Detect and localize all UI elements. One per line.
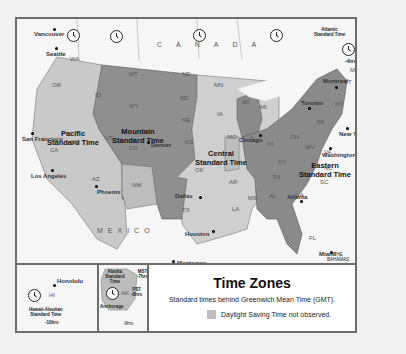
- alaska-inset: Alaska Standard Time AK Anchorage MST -7…: [97, 265, 149, 331]
- city-label-houston: Houston: [185, 231, 209, 237]
- state-label-me: ME: [350, 67, 357, 73]
- state-label-ut: UT: [105, 135, 113, 141]
- legend-box: Time Zones Standard times behind Greenwi…: [149, 265, 355, 331]
- city-dot-seattle: [55, 47, 58, 50]
- hawaii-offset: -10hrs: [45, 320, 59, 325]
- city-label-washington: Washington DC: [322, 152, 357, 158]
- zone-label-central: Central Standard Time: [195, 149, 247, 167]
- state-label-nd: ND: [182, 71, 191, 77]
- state-label-sc: SC: [320, 179, 328, 185]
- city-label-anchorage: Anchorage: [100, 304, 124, 309]
- city-dot-montreal: [335, 86, 338, 89]
- state-label-co: CO: [129, 145, 138, 151]
- city-label-vancouver: Vancouver: [34, 31, 64, 37]
- country-label-canada: CANADA: [157, 41, 270, 48]
- state-label-ky: KY: [278, 159, 286, 165]
- hawaii-inset: Honolulu HI Hawaii-Aleutian Standard Tim…: [17, 265, 99, 331]
- city-dot-houston: [212, 230, 215, 233]
- city-label-new-york: New York: [339, 131, 357, 137]
- state-label-oh: OH: [290, 134, 299, 140]
- state-label-mo: MO: [227, 134, 237, 140]
- legend-key-label: Daylight Saving Time not observed.: [221, 311, 331, 318]
- city-label-seattle: Seattle: [46, 51, 66, 57]
- city-label-dallas: Dallas: [175, 193, 193, 199]
- no-dst-swatch: [207, 310, 216, 319]
- legend-subtitle: Standard times behind Greenwich Mean Tim…: [149, 296, 355, 303]
- state-label-la: LA: [232, 206, 239, 212]
- city-label-chicago: Chicago: [239, 137, 263, 143]
- state-label-tn: TN: [272, 174, 280, 180]
- state-label-ak: AK: [121, 290, 129, 296]
- city-label-montreal: Montreal: [323, 78, 348, 84]
- city-dot-san-francisco: [31, 132, 34, 135]
- state-label-nc: NC: [324, 165, 333, 171]
- state-label-mn: MN: [214, 82, 223, 88]
- state-label-or: OR: [52, 82, 61, 88]
- city-dot-dallas: [199, 196, 202, 199]
- state-label-wy: WY: [129, 103, 139, 109]
- city-label-miami: Miami: [319, 251, 336, 257]
- state-label-wi: WI: [242, 99, 249, 105]
- state-label-ne: NE: [182, 117, 190, 123]
- city-label-honolulu: Honolulu: [57, 278, 83, 284]
- clock-icon-alaska: [106, 287, 119, 300]
- legend-title: Time Zones: [149, 275, 355, 291]
- clock-icon-mountain: [110, 30, 123, 43]
- city-dot-washington: [329, 147, 332, 150]
- zone-label-atlantic: Atlantic Standard Time: [314, 27, 345, 37]
- state-label-ar: AR: [229, 179, 237, 185]
- state-label-wv: WV: [305, 144, 315, 150]
- state-label-tx: TX: [182, 207, 190, 213]
- state-label-hi: HI: [49, 292, 55, 298]
- insets-panel: Honolulu HI Hawaii-Aleutian Standard Tim…: [15, 263, 357, 333]
- state-label-nv: NV: [71, 139, 79, 145]
- legend-key: Daylight Saving Time not observed.: [207, 310, 331, 319]
- state-label-ny: NY: [335, 101, 343, 107]
- city-label-atlanta: Atlanta: [287, 194, 307, 200]
- city-dot-honolulu: [53, 284, 56, 287]
- clock-icon-atlantic: [342, 43, 355, 56]
- state-label-sd: SD: [180, 95, 188, 101]
- city-dot-new-york: [346, 127, 349, 130]
- city-label-toronto: Toronto: [301, 100, 323, 106]
- zone-label-hawaii: Hawaii-Aleutian Standard Time: [29, 307, 63, 317]
- alaska-pst: PST -8hrs: [131, 287, 142, 297]
- city-dot-atlanta: [300, 200, 303, 203]
- state-label-id: ID: [95, 92, 101, 98]
- state-label-mi: MI: [260, 104, 267, 110]
- state-label-fl: FL: [309, 235, 316, 241]
- city-dot-toronto: [308, 107, 311, 110]
- state-label-ok: OK: [195, 167, 204, 173]
- state-label-az: AZ: [92, 176, 100, 182]
- state-label-ms: MS: [248, 195, 257, 201]
- state-label-in: IN: [267, 141, 273, 147]
- country-label-mexico: MEXICO: [97, 227, 155, 234]
- atlantic-offset: -4hrs: [345, 59, 356, 64]
- city-dot-los-angeles: [51, 169, 54, 172]
- clock-icon-pacific: [67, 29, 80, 42]
- city-dot-denver: [147, 141, 150, 144]
- state-label-wa: WA: [70, 56, 79, 62]
- state-label-ia: IA: [217, 111, 223, 117]
- state-label-mt: MT: [129, 71, 138, 77]
- city-label-denver: Denver: [151, 142, 171, 148]
- state-label-nm: NM: [132, 182, 141, 188]
- city-dot-phoenix: [95, 185, 98, 188]
- alaska-offset: -9hrs: [123, 321, 133, 326]
- zone-label-alaska: Alaska Standard Time: [105, 269, 125, 284]
- main-map: CANADA MEXICO THE BAHAMAS Pacific Standa…: [15, 17, 357, 265]
- clock-icon-eastern: [270, 29, 283, 42]
- clock-icon-hawaii: [28, 289, 41, 302]
- state-label-pa: PA: [317, 119, 325, 125]
- state-label-ca: CA: [50, 147, 58, 153]
- state-label-ks: KS: [185, 139, 193, 145]
- city-label-san-francisco: San Francisco: [22, 136, 63, 142]
- city-label-phoenix: Phoenix: [97, 189, 120, 195]
- city-label-los-angeles: Los Angeles: [31, 173, 66, 179]
- alaska-mst: MST -7hrs: [137, 269, 148, 279]
- state-label-al: AL: [269, 193, 276, 199]
